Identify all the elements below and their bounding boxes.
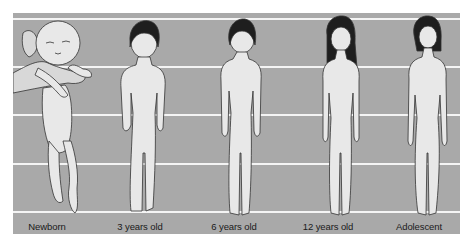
- newborn-figure: [13, 21, 92, 213]
- figures-illustration: [13, 13, 460, 234]
- label-6-years: 6 years old: [194, 221, 274, 232]
- label-newborn: Newborn: [13, 221, 87, 232]
- toddler-figure: [121, 21, 165, 211]
- label-12-years: 12 years old: [288, 221, 368, 232]
- label-adolescent: Adolescent: [379, 221, 459, 232]
- label-3-years: 3 years old: [100, 221, 180, 232]
- proportions-panel: Newborn 3 years old 6 years old 12 years…: [13, 13, 460, 234]
- preteen-figure: [323, 16, 359, 215]
- adolescent-figure: [408, 16, 447, 215]
- child-figure: [221, 19, 261, 215]
